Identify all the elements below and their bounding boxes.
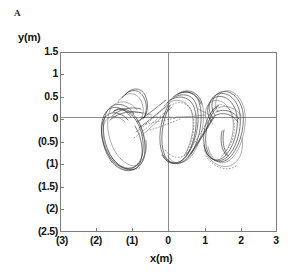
trajectory-series	[101, 89, 245, 171]
trajectory-plot	[0, 0, 295, 272]
figure-panel: A y(m) x(m) 1.5 1 0.5 0 (0.5) (1) (1.5) …	[0, 0, 295, 272]
